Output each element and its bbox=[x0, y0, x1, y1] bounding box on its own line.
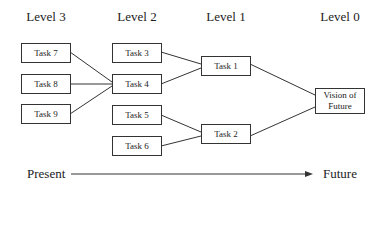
task-9-box: Task 9 bbox=[21, 104, 71, 124]
arrow-head-icon bbox=[305, 171, 313, 177]
task-6-box: Task 6 bbox=[112, 136, 162, 156]
task-3-box: Task 3 bbox=[112, 43, 162, 63]
task-5-box: Task 5 bbox=[112, 105, 162, 125]
vision-of-future-box: Vision of Future bbox=[315, 88, 365, 114]
timeline-start-label: Present bbox=[27, 166, 65, 182]
task-7-box: Task 7 bbox=[21, 43, 71, 63]
task-2-box: Task 2 bbox=[201, 124, 251, 144]
timeline-end-label: Future bbox=[323, 166, 357, 182]
task-1-box: Task 1 bbox=[201, 56, 251, 76]
task-4-box: Task 4 bbox=[112, 74, 162, 94]
task-8-box: Task 8 bbox=[21, 74, 71, 94]
